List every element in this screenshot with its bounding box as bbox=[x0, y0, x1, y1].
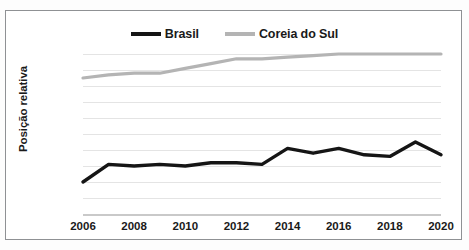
x-axis-line bbox=[83, 214, 441, 216]
chart-figure: Brasil Coreia do Sul Posição relativa 0%… bbox=[0, 0, 469, 250]
chart-legend: Brasil Coreia do Sul bbox=[6, 23, 463, 45]
legend-label-brasil: Brasil bbox=[165, 27, 199, 41]
x-axis-tick-label: 2016 bbox=[326, 220, 352, 232]
series-layer bbox=[83, 54, 441, 214]
x-axis-tick-label: 2018 bbox=[377, 220, 403, 232]
x-axis-tick-label: 2008 bbox=[121, 220, 147, 232]
legend-label-coreia-do-sul: Coreia do Sul bbox=[259, 27, 338, 41]
legend-item-coreia-do-sul: Coreia do Sul bbox=[225, 27, 338, 41]
x-axis-tick-label: 2014 bbox=[275, 220, 301, 232]
x-axis-tick-label: 2006 bbox=[70, 220, 96, 232]
legend-item-brasil: Brasil bbox=[131, 27, 199, 41]
legend-line-swatch-brasil bbox=[131, 32, 161, 37]
y-axis-title: Posição relativa bbox=[17, 34, 29, 184]
x-axis-tick-labels: 20062008201020122014201620182020 bbox=[83, 217, 441, 241]
plot-area bbox=[83, 54, 441, 214]
chart-frame: Brasil Coreia do Sul Posição relativa 0%… bbox=[5, 10, 462, 240]
line-series-coreia-do-sul bbox=[83, 54, 441, 78]
legend-line-swatch-coreia-do-sul bbox=[225, 32, 255, 37]
x-axis-tick-label: 2010 bbox=[172, 220, 198, 232]
line-series-brasil bbox=[83, 142, 441, 182]
x-axis-tick-label: 2012 bbox=[224, 220, 250, 232]
x-axis-tick-label: 2020 bbox=[428, 220, 454, 232]
